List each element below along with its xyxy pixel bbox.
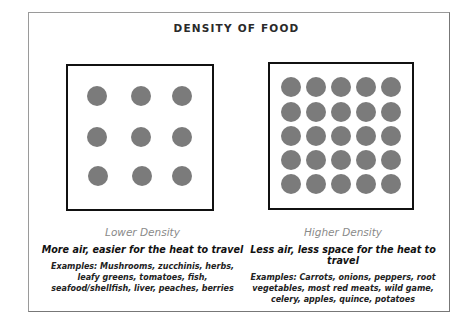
food-particle [381,150,401,170]
food-particle [356,102,376,122]
food-particle [331,150,351,170]
higher-density-caption: Higher Density Less air, less space for … [243,226,443,305]
food-particle [306,102,326,122]
food-particle [331,174,351,194]
food-particle [131,86,151,106]
higher-density-examples: Examples: Carrots, onions, peppers, root… [243,272,443,305]
food-particle [306,77,326,97]
food-particle [306,150,326,170]
food-particle [281,77,301,97]
food-particle [281,126,301,146]
food-particle [356,126,376,146]
lower-density-examples: Examples: Mushrooms, zucchinis, herbs, l… [40,261,245,294]
food-particle [281,174,301,194]
lower-density-caption: Lower Density More air, easier for the h… [40,226,245,294]
food-particle [381,77,401,97]
food-particle [381,174,401,194]
food-particle [172,166,192,186]
food-particle [281,150,301,170]
higher-density-label: Higher Density [243,226,443,238]
food-particle [172,86,192,106]
food-particle [381,102,401,122]
food-particle [356,77,376,97]
food-particle [331,77,351,97]
higher-density-box [268,62,414,210]
food-particle [88,166,108,186]
higher-density-subtitle: Less air, less space for the heat to tra… [243,244,443,266]
food-particle [132,166,152,186]
food-particle [356,174,376,194]
food-particle [172,127,192,147]
lower-density-subtitle: More air, easier for the heat to travel [40,244,245,255]
food-particle [306,174,326,194]
lower-density-label: Lower Density [40,226,245,238]
food-particle [331,102,351,122]
food-particle [281,102,301,122]
food-particle [87,127,107,147]
food-particle [131,127,151,147]
food-particle [87,86,107,106]
food-particle [381,126,401,146]
food-particle [331,126,351,146]
food-particle [356,150,376,170]
lower-density-box [66,64,214,211]
food-particle [306,126,326,146]
diagram-title: DENSITY OF FOOD [0,22,473,34]
